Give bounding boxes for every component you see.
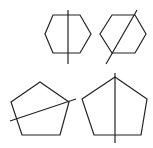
pentagon-outline: [11, 82, 69, 135]
shapes-figure: [0, 0, 153, 148]
pentagon-2: [82, 73, 147, 143]
cutting-line: [10, 99, 76, 121]
hexagon-1: [45, 10, 91, 64]
pentagon-1: [10, 82, 76, 135]
diagram-canvas: [0, 0, 153, 148]
hexagon-2: [100, 10, 146, 64]
